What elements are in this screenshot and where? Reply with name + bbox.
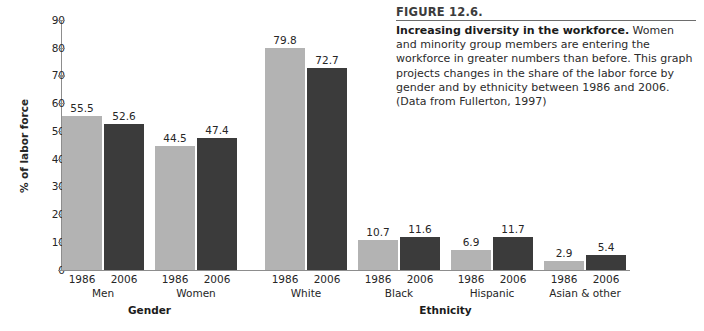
x-year-label: 2006 bbox=[584, 273, 628, 285]
x-supergroup-label-ethnicity: Ethnicity bbox=[376, 304, 516, 316]
x-year-label: 2006 bbox=[195, 273, 239, 285]
bar-value-label: 55.5 bbox=[62, 103, 102, 114]
bar-value-label: 44.5 bbox=[155, 133, 195, 144]
bar-black-1986 bbox=[358, 240, 398, 270]
bar-women-1986 bbox=[155, 146, 195, 269]
bar-men-1986 bbox=[62, 116, 102, 270]
x-year-label: 2006 bbox=[102, 273, 146, 285]
x-group-label: Women bbox=[136, 287, 256, 299]
bar-hispanic-1986 bbox=[451, 250, 491, 269]
x-year-label: 2006 bbox=[491, 273, 535, 285]
figure-caption-text: Increasing diversity in the workforce. W… bbox=[396, 24, 696, 109]
x-year-label: 2006 bbox=[398, 273, 442, 285]
bar-hispanic-2006 bbox=[493, 237, 533, 269]
bar-women-2006 bbox=[197, 138, 237, 269]
bar-asian-other-2006 bbox=[586, 255, 626, 270]
bar-asian-other-1986 bbox=[544, 261, 584, 269]
bar-value-label: 11.6 bbox=[400, 224, 440, 235]
x-year-label: 1986 bbox=[153, 273, 197, 285]
x-year-label: 2006 bbox=[305, 273, 349, 285]
bar-men-2006 bbox=[104, 124, 144, 270]
x-group-label: Asian & other bbox=[525, 287, 645, 299]
x-supergroup-label-gender: Gender bbox=[80, 304, 220, 316]
figure-caption-block: FIGURE 12.6. Increasing diversity in the… bbox=[396, 6, 696, 109]
x-year-label: 1986 bbox=[356, 273, 400, 285]
bar-value-label: 47.4 bbox=[197, 125, 237, 136]
bar-value-label: 52.6 bbox=[104, 111, 144, 122]
x-year-label: 1986 bbox=[60, 273, 104, 285]
x-year-label: 1986 bbox=[542, 273, 586, 285]
bar-white-2006 bbox=[307, 68, 347, 270]
x-year-label: 1986 bbox=[449, 273, 493, 285]
bar-value-label: 10.7 bbox=[358, 227, 398, 238]
bar-white-1986 bbox=[265, 48, 305, 269]
bar-value-label: 6.9 bbox=[451, 237, 491, 248]
bar-value-label: 11.7 bbox=[493, 224, 533, 235]
bar-value-label: 2.9 bbox=[544, 248, 584, 259]
bar-value-label: 5.4 bbox=[586, 242, 626, 253]
bar-value-label: 72.7 bbox=[307, 55, 347, 66]
x-year-label: 1986 bbox=[263, 273, 307, 285]
bar-value-label: 79.8 bbox=[265, 35, 305, 46]
caption-lead: Increasing diversity in the workforce. bbox=[396, 24, 629, 37]
figure-number: FIGURE 12.6. bbox=[396, 6, 696, 21]
bar-black-2006 bbox=[400, 237, 440, 269]
